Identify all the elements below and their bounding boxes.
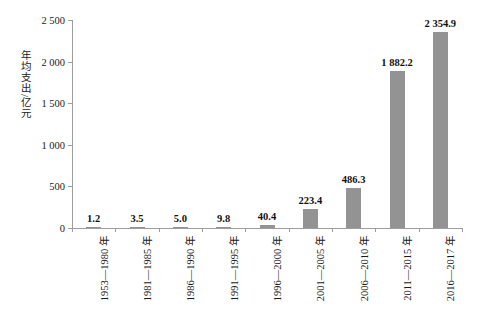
x-tick-mark — [462, 228, 463, 232]
bar-value-label: 3.5 — [130, 213, 143, 224]
y-tick-mark — [68, 62, 72, 63]
y-tick-mark — [68, 145, 72, 146]
y-tick-label: 1 500 — [41, 98, 65, 109]
bar[interactable] — [86, 227, 101, 228]
bar-value-label: 1 882.2 — [381, 57, 413, 68]
x-axis-line — [72, 228, 463, 229]
y-tick-label: 2 500 — [41, 15, 65, 26]
x-axis-label: 2006—2010 年 — [359, 236, 370, 301]
y-tick-label: 500 — [49, 181, 65, 192]
y-tick-mark — [68, 20, 72, 21]
bar-value-label: 40.4 — [258, 211, 276, 222]
y-tick-mark — [68, 103, 72, 104]
x-tick-mark — [115, 228, 116, 232]
x-axis-label: 1953—1980 年 — [99, 236, 110, 301]
bar[interactable] — [390, 71, 405, 228]
bar[interactable] — [260, 225, 275, 228]
x-axis-label: 2016—2017 年 — [445, 236, 456, 301]
bar-value-label: 9.8 — [217, 213, 230, 224]
y-tick-mark — [68, 186, 72, 187]
x-axis-label: 1986—1990 年 — [185, 236, 196, 301]
bar-value-label: 5.0 — [174, 213, 187, 224]
bar[interactable] — [130, 227, 145, 228]
bar[interactable] — [173, 227, 188, 228]
x-axis-label: 1991—1995 年 — [229, 236, 240, 301]
y-axis-title: 年均支出/亿元 — [14, 50, 30, 119]
bar[interactable] — [433, 32, 448, 228]
plot-area: 05001 0001 5002 0002 5001.23.55.09.840.4… — [72, 20, 462, 228]
x-tick-mark — [332, 228, 333, 232]
bar[interactable] — [346, 188, 361, 228]
x-tick-mark — [245, 228, 246, 232]
bar[interactable] — [303, 209, 318, 228]
x-axis-label: 1981—1985 年 — [142, 236, 153, 301]
x-tick-mark — [289, 228, 290, 232]
x-tick-mark — [202, 228, 203, 232]
y-tick-label: 1 000 — [41, 139, 65, 150]
bar-chart: 年均支出/亿元 05001 0001 5002 0002 5001.23.55.… — [0, 0, 481, 323]
bar-value-label: 2 354.9 — [425, 18, 457, 29]
x-tick-mark — [419, 228, 420, 232]
bar-value-label: 1.2 — [87, 213, 100, 224]
bar-value-label: 486.3 — [342, 174, 366, 185]
x-tick-mark — [375, 228, 376, 232]
x-tick-mark — [72, 228, 73, 232]
y-tick-label: 2 000 — [41, 56, 65, 67]
x-axis-label: 2011—2015 年 — [402, 236, 413, 301]
x-axis-label: 2001—2005 年 — [315, 236, 326, 301]
x-axis-label: 1996—2000 年 — [272, 236, 283, 301]
bar-value-label: 223.4 — [299, 195, 323, 206]
y-tick-label: 0 — [60, 223, 65, 234]
x-tick-mark — [159, 228, 160, 232]
bar[interactable] — [216, 227, 231, 228]
